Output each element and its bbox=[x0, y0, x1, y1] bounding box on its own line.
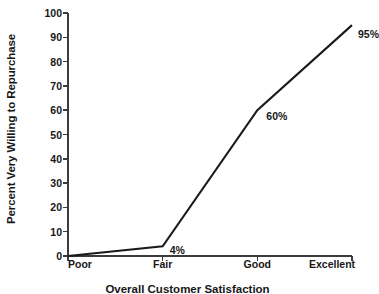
x-axis-tick-labels: PoorFairGoodExcellent bbox=[0, 259, 375, 273]
axis-lines bbox=[68, 13, 352, 256]
data-series-line bbox=[68, 25, 352, 256]
data-point-label: 95% bbox=[358, 29, 379, 40]
x-axis-title: Overall Customer Satisfaction bbox=[0, 283, 375, 294]
x-axis-tick-label: Fair bbox=[153, 259, 172, 270]
data-point-label: 4% bbox=[170, 245, 185, 256]
x-axis-tick-label: Excellent bbox=[309, 259, 355, 270]
x-axis-tick-label: Good bbox=[244, 259, 271, 270]
data-point-label: 60% bbox=[266, 111, 287, 122]
x-axis-tick-label: Poor bbox=[68, 259, 92, 270]
